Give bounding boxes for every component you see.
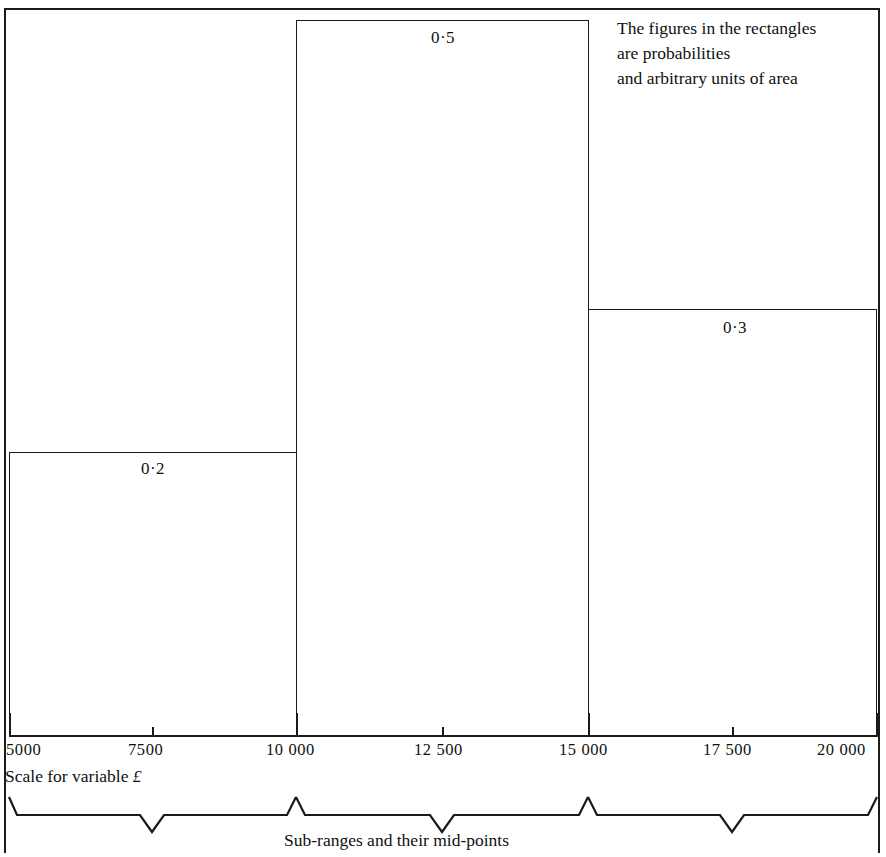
histogram-bar-1 — [9, 452, 297, 736]
x-axis-label-20000: 20 000 — [817, 740, 866, 760]
brace-caption: Sub-ranges and their mid-points — [284, 830, 509, 851]
histogram-bar-2 — [296, 20, 589, 736]
x-axis-title: Scale for variable £ — [5, 766, 142, 787]
x-axis-tick-12500 — [442, 727, 444, 736]
x-axis-tick-10000 — [296, 713, 298, 736]
figure-note-line-2: are probabilities — [617, 41, 816, 66]
x-axis-tick-5000 — [9, 713, 11, 736]
histogram-bar-3 — [588, 309, 877, 736]
x-axis-label-10000: 10 000 — [266, 740, 315, 760]
x-axis-tick-15000 — [588, 713, 590, 736]
pound-symbol: £ — [133, 766, 142, 786]
bar-label-1: 0·2 — [108, 459, 198, 479]
x-axis-tick-17500 — [732, 727, 734, 736]
figure-note: The figures in the rectangles are probab… — [617, 16, 816, 91]
figure-note-line-1: The figures in the rectangles — [617, 16, 816, 41]
bar-label-2: 0·5 — [398, 28, 488, 48]
figure-note-line-3: and arbitrary units of area — [617, 66, 816, 91]
x-axis-tick-20000 — [876, 713, 878, 736]
brace-sub-range-2 — [296, 797, 588, 832]
x-axis-title-text: Scale for variable — [5, 766, 133, 786]
x-axis-label-7500: 7500 — [128, 740, 163, 760]
x-axis-label-17500: 17 500 — [703, 740, 752, 760]
brace-sub-range-1 — [9, 797, 296, 832]
x-axis-label-5000: 5000 — [6, 740, 41, 760]
brace-sub-range-3 — [588, 797, 877, 832]
x-axis-label-12500: 12 500 — [414, 740, 463, 760]
x-axis-label-15000: 15 000 — [559, 740, 608, 760]
x-axis-tick-7500 — [152, 727, 154, 736]
bar-label-3: 0·3 — [690, 318, 780, 338]
figure-canvas: 0·2 0·5 0·3 The figures in the rectangle… — [0, 0, 886, 857]
histogram-plot: 0·2 0·5 0·3 The figures in the rectangle… — [0, 0, 886, 857]
